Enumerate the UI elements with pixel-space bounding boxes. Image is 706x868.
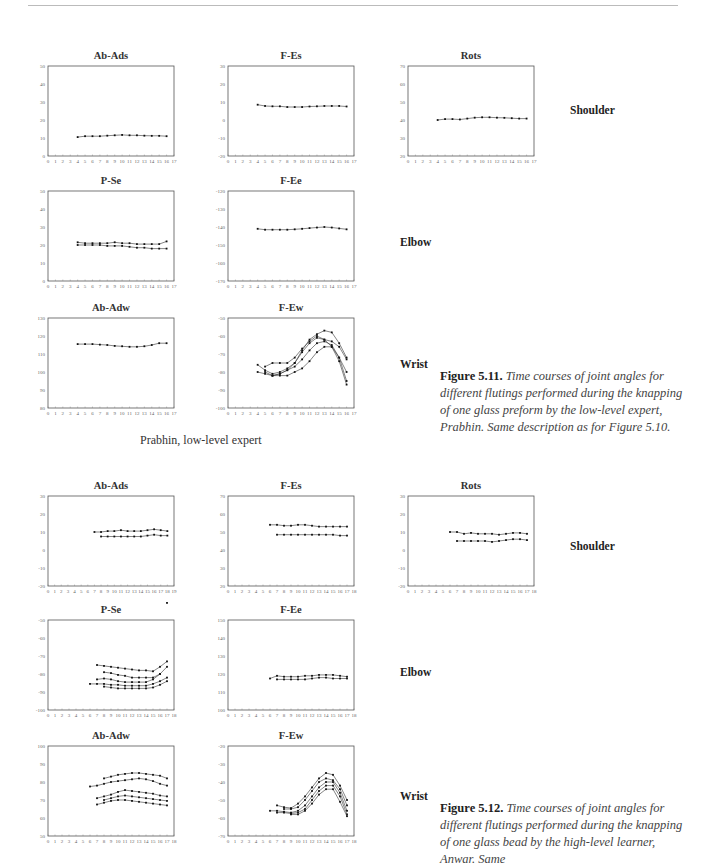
svg-text:6: 6 — [271, 284, 274, 289]
svg-text:10: 10 — [300, 284, 306, 289]
svg-text:10: 10 — [476, 589, 482, 594]
svg-text:11: 11 — [307, 159, 312, 164]
svg-text:9: 9 — [113, 159, 116, 164]
row-label-wrist: Wrist — [400, 358, 428, 370]
svg-text:-80: -80 — [38, 672, 45, 677]
svg-text:-20: -20 — [218, 154, 225, 159]
svg-text:110: 110 — [218, 690, 226, 695]
chart-f12-f-ew: F-Ew0123456789101112131415161718-70-60-5… — [200, 728, 380, 850]
svg-text:13: 13 — [142, 284, 148, 289]
svg-text:11: 11 — [127, 284, 132, 289]
svg-text:1: 1 — [54, 284, 57, 289]
svg-text:15: 15 — [517, 159, 523, 164]
svg-text:40: 40 — [400, 118, 406, 123]
svg-text:6: 6 — [451, 159, 454, 164]
svg-text:8: 8 — [103, 839, 106, 844]
svg-text:4: 4 — [73, 589, 76, 594]
caption-label: Figure 5.11. — [440, 369, 503, 383]
svg-text:9: 9 — [106, 589, 109, 594]
svg-text:12: 12 — [130, 839, 136, 844]
svg-text:3: 3 — [69, 159, 72, 164]
svg-text:14: 14 — [329, 159, 335, 164]
svg-text:7: 7 — [96, 713, 99, 718]
svg-text:5: 5 — [444, 159, 447, 164]
svg-text:16: 16 — [338, 713, 344, 718]
svg-text:12: 12 — [310, 589, 316, 594]
svg-text:150: 150 — [218, 618, 226, 623]
chart-f11-f-es: F-Es01234567891011121314151617-20-100102… — [200, 48, 380, 170]
line-chart: F-Ee012345678910111213141516171810011012… — [200, 602, 380, 724]
chart-title: F-Ew — [279, 730, 304, 741]
svg-text:10: 10 — [296, 589, 302, 594]
svg-text:-20: -20 — [218, 744, 225, 749]
svg-text:-140: -140 — [216, 225, 226, 230]
svg-text:17: 17 — [532, 159, 538, 164]
svg-text:90: 90 — [40, 388, 46, 393]
chart-title: F-Ee — [280, 604, 302, 615]
svg-text:10: 10 — [400, 530, 406, 535]
svg-text:4: 4 — [75, 839, 78, 844]
svg-text:1: 1 — [53, 589, 56, 594]
svg-text:7: 7 — [99, 159, 102, 164]
svg-text:5: 5 — [264, 284, 267, 289]
svg-text:7: 7 — [459, 159, 462, 164]
svg-text:8: 8 — [283, 589, 286, 594]
svg-text:4: 4 — [436, 159, 439, 164]
svg-text:-170: -170 — [216, 279, 226, 284]
svg-text:5: 5 — [82, 839, 85, 844]
row-label-wrist: Wrist — [400, 790, 428, 802]
svg-text:90: 90 — [40, 762, 46, 767]
chart-title: F-Ew — [279, 302, 304, 313]
svg-text:4: 4 — [76, 159, 79, 164]
chart-f12-ab-ads: Ab-Ads012345678910111213141516171819-20-… — [20, 478, 200, 600]
svg-text:30: 30 — [40, 494, 46, 499]
svg-text:0: 0 — [407, 589, 410, 594]
svg-text:10: 10 — [296, 839, 302, 844]
svg-text:11: 11 — [127, 411, 132, 416]
svg-text:0: 0 — [47, 284, 50, 289]
svg-text:14: 14 — [509, 159, 515, 164]
svg-text:14: 14 — [324, 839, 330, 844]
svg-text:100: 100 — [38, 370, 46, 375]
svg-text:17: 17 — [172, 159, 178, 164]
svg-text:1: 1 — [234, 284, 237, 289]
svg-text:0: 0 — [403, 548, 406, 553]
svg-text:0: 0 — [227, 589, 230, 594]
line-chart: F-Ew0123456789101112131415161718-70-60-5… — [200, 728, 380, 850]
chart-title: Ab-Ads — [94, 480, 128, 491]
svg-text:12: 12 — [490, 589, 496, 594]
svg-text:9: 9 — [290, 589, 293, 594]
svg-text:13: 13 — [137, 713, 143, 718]
svg-text:9: 9 — [290, 713, 293, 718]
svg-text:20: 20 — [40, 118, 46, 123]
svg-text:1: 1 — [54, 839, 57, 844]
svg-text:-100: -100 — [216, 406, 226, 411]
svg-text:8: 8 — [466, 159, 469, 164]
svg-text:10: 10 — [40, 261, 46, 266]
svg-text:130: 130 — [218, 654, 226, 659]
svg-text:0: 0 — [43, 154, 46, 159]
svg-text:15: 15 — [511, 589, 517, 594]
svg-text:7: 7 — [279, 411, 282, 416]
svg-text:5: 5 — [264, 159, 267, 164]
chart-title: F-Es — [281, 480, 302, 491]
chart-f12-f-ee: F-Ee012345678910111213141516171810011012… — [200, 602, 380, 724]
svg-text:2: 2 — [421, 589, 424, 594]
svg-text:10: 10 — [300, 159, 306, 164]
svg-text:80: 80 — [40, 406, 46, 411]
svg-text:-60: -60 — [218, 334, 225, 339]
svg-text:15: 15 — [157, 284, 163, 289]
svg-text:0: 0 — [47, 159, 50, 164]
svg-text:12: 12 — [125, 589, 131, 594]
svg-text:18: 18 — [352, 713, 358, 718]
svg-text:12: 12 — [134, 411, 140, 416]
svg-text:8: 8 — [106, 411, 109, 416]
svg-text:4: 4 — [256, 411, 259, 416]
svg-text:10: 10 — [116, 839, 122, 844]
svg-text:15: 15 — [331, 589, 337, 594]
svg-text:20: 20 — [400, 154, 406, 159]
svg-text:16: 16 — [152, 589, 158, 594]
chart-title: P-Se — [101, 604, 122, 615]
svg-text:15: 15 — [157, 159, 163, 164]
svg-text:4: 4 — [75, 713, 78, 718]
